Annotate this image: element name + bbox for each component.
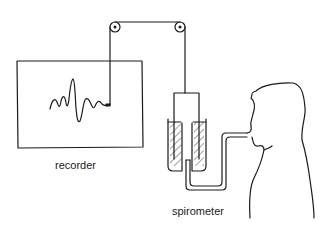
recorder-box <box>17 61 143 148</box>
subject-profile <box>247 83 314 218</box>
spirometer-label: spirometer <box>172 205 224 217</box>
spirometer-diagram <box>0 0 320 232</box>
recorder-label: recorder <box>55 159 96 171</box>
recorder-trace <box>50 79 110 122</box>
